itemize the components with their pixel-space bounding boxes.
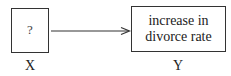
node-y-text-line-1: increase in [132, 13, 225, 29]
node-y-text: increase in divorce rate [132, 13, 225, 45]
node-y-text-line-2: divorce rate [132, 29, 225, 45]
node-x-label: X [20, 58, 40, 74]
node-y-label: Y [168, 58, 188, 74]
node-y-box: increase in divorce rate [131, 6, 226, 52]
